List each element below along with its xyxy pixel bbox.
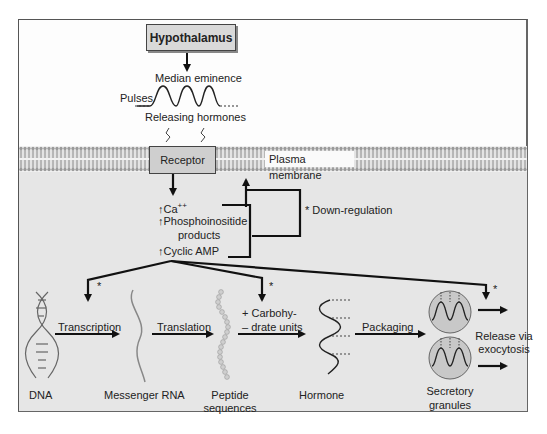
granules-label-1: Secretory	[420, 385, 480, 397]
transcription-label: Transcription	[58, 321, 121, 333]
granules-label-2: granules	[420, 399, 480, 411]
cyclic-amp-label: ↑Cyclic AMP	[158, 245, 219, 257]
median-eminence-label: Median eminence	[155, 72, 242, 84]
phosphoinositide-label: ↑Phosphoinositide	[158, 215, 247, 227]
carbohydrate-label-1: + Carbohy-	[242, 307, 297, 319]
down-regulation-label: * Down-regulation	[305, 204, 392, 216]
secretory-granule-icon	[429, 291, 471, 333]
release-label-1: Release via	[474, 330, 534, 342]
asterisk-glycosylation: *	[269, 280, 273, 292]
plasma-membrane-label: Plasma membrane	[265, 151, 354, 167]
products-label: products	[178, 229, 220, 241]
peptide-label-1: Peptide	[200, 389, 260, 401]
receptor-box: Receptor	[149, 146, 216, 174]
diagram-lines	[0, 0, 547, 434]
packaging-label: Packaging	[362, 321, 413, 333]
hormone-molecule-icon	[320, 300, 341, 374]
calcium-label: ↑Ca++	[158, 200, 187, 215]
release-label-2: exocytosis	[474, 343, 534, 355]
asterisk-release: *	[493, 283, 497, 295]
carbohydrate-label-2: – drate units	[242, 321, 303, 333]
asterisk-transcription: *	[97, 280, 101, 292]
mrna-label: Messenger RNA	[104, 389, 185, 401]
translation-label: Translation	[157, 321, 211, 333]
peptide-label-2: sequences	[200, 402, 260, 414]
dna-helix-icon	[26, 292, 59, 378]
peptide-chain-icon	[216, 290, 231, 380]
hormone-label: Hormone	[299, 389, 344, 401]
secretory-granule-icon	[429, 337, 471, 379]
hypothalamus-box: Hypothalamus	[146, 24, 236, 51]
releasing-hormones-label: Releasing hormones	[145, 111, 246, 123]
mrna-strand-icon	[131, 290, 145, 382]
dna-label: DNA	[29, 389, 52, 401]
pulses-label: Pulses	[120, 92, 153, 104]
